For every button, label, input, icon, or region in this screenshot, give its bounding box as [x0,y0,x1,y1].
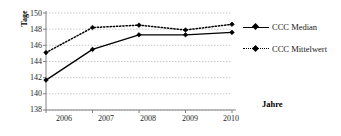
legend-label: CCC Mittelwert [272,44,327,54]
legend-item-ccc-mittelwert[interactable]: CCC Mittelwert [243,38,341,60]
data-point-marker [230,22,235,27]
x-tick-label: 2010 [211,114,251,123]
x-tick-label: 2008 [128,114,168,123]
x-tick-label: 2006 [44,114,84,123]
series-line [46,32,232,80]
legend-item-ccc-median[interactable]: CCC Median [243,16,341,38]
legend-label: CCC Median [272,22,317,32]
chart-legend: CCC Median CCC Mittelwert [243,16,341,60]
data-point-marker [183,33,188,38]
x-tick-label: 2009 [170,114,210,123]
data-point-marker [230,30,235,35]
legend-swatch-dotted-line-icon [243,44,269,54]
x-tick-label: 2007 [86,114,126,123]
chart-container: Tage 150 148 146 144 142 140 138 2006 20… [0,0,341,136]
data-point-marker [183,28,188,33]
series-line [46,24,232,52]
data-point-marker [137,23,142,28]
legend-swatch-solid-line-icon [243,22,269,32]
data-point-marker [137,33,142,38]
x-axis-title: Jahre [262,99,283,109]
data-point-marker [44,50,49,55]
